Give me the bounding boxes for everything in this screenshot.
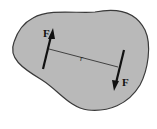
couple-diagram: F F r <box>0 0 157 129</box>
force-label-top: F <box>43 27 50 39</box>
force-label-bottom: F <box>122 76 129 88</box>
